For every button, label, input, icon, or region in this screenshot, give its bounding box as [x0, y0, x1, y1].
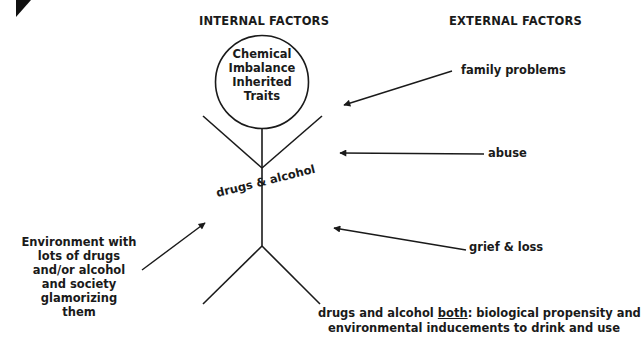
- head-line: Imbalance: [216, 61, 308, 75]
- internal-factors-heading: INTERNAL FACTORS: [199, 14, 329, 28]
- environment-line: and society: [18, 277, 140, 291]
- stick-figure-right-arm: [262, 116, 322, 168]
- environment-line: Environment with: [18, 235, 140, 249]
- conclusion-line-1: drugs and alcohol both: biological prope…: [318, 306, 630, 321]
- arrow-grief-loss: [334, 228, 466, 250]
- conclusion-text: drugs and alcohol both: biological prope…: [318, 306, 630, 336]
- environment-line: and/or alcohol: [18, 263, 140, 277]
- environment-line: glamorizing: [18, 291, 140, 305]
- head-line: Chemical: [216, 47, 308, 61]
- head-line: Traits: [216, 89, 308, 103]
- stick-figure-left-leg: [203, 246, 262, 304]
- factor-abuse: abuse: [488, 146, 527, 160]
- arrow-environment: [142, 223, 205, 270]
- head-circle-text: Chemical Imbalance Inherited Traits: [216, 47, 308, 103]
- stick-figure-right-leg: [262, 246, 320, 304]
- conclusion-emphasis: both: [438, 306, 468, 320]
- arrow-family-problems: [344, 71, 452, 105]
- corner-triangle-icon: [16, 0, 31, 17]
- environment-text: Environment with lots of drugs and/or al…: [18, 235, 140, 319]
- conclusion-line-2: environmental inducements to drink and u…: [318, 321, 630, 336]
- factor-family-problems: family problems: [461, 63, 566, 77]
- environment-line: lots of drugs: [18, 249, 140, 263]
- external-factors-heading: EXTERNAL FACTORS: [449, 14, 582, 28]
- arrow-abuse: [340, 153, 484, 154]
- environment-line: them: [18, 305, 140, 319]
- stick-figure-left-arm: [203, 116, 262, 168]
- head-line: Inherited: [216, 75, 308, 89]
- conclusion-prefix: drugs and alcohol: [318, 306, 438, 320]
- factor-grief-loss: grief & loss: [469, 240, 543, 254]
- conclusion-suffix: : biological propensity and: [468, 306, 641, 320]
